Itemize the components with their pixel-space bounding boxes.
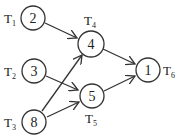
svg-text:6: 6: [171, 71, 175, 80]
svg-text:T: T: [4, 115, 12, 130]
node-t5-value: 5: [89, 89, 96, 104]
svg-text:5: 5: [93, 119, 97, 128]
label-t3: T 3: [4, 115, 16, 132]
node-t5: 5: [80, 84, 104, 108]
svg-text:T: T: [85, 111, 93, 126]
svg-text:2: 2: [12, 72, 16, 81]
node-t6-value: 1: [145, 63, 152, 78]
node-t6: 1: [136, 58, 160, 82]
label-t6: T 6: [163, 63, 175, 80]
edge-t3-t4: [42, 55, 82, 111]
label-t2: T 2: [4, 64, 16, 81]
node-t4-value: 4: [88, 37, 95, 52]
label-t1: T 1: [4, 11, 16, 28]
node-t4: 4: [78, 31, 104, 57]
node-t3-value: 8: [31, 115, 38, 130]
svg-text:T: T: [84, 13, 92, 28]
svg-text:4: 4: [92, 21, 96, 30]
label-t4: T 4: [84, 13, 96, 30]
svg-text:T: T: [4, 11, 12, 26]
edge-t5-t6: [104, 76, 135, 91]
svg-text:1: 1: [12, 19, 16, 28]
svg-text:T: T: [163, 63, 171, 78]
edge-t3-t5: [47, 102, 79, 117]
node-t1-value: 2: [30, 11, 37, 26]
svg-text:3: 3: [12, 123, 16, 132]
node-t2: 3: [22, 59, 46, 83]
edge-t4-t6: [103, 49, 135, 64]
task-graph: 2 T 1 3 T 2 8 T 3 4 T 4 5 T 5 1: [0, 0, 178, 136]
node-t3: 8: [22, 110, 46, 134]
label-t5: T 5: [85, 111, 97, 128]
svg-text:T: T: [4, 64, 12, 79]
node-t2-value: 3: [31, 64, 38, 79]
node-t1: 2: [21, 6, 45, 30]
edge-t1-t4: [45, 23, 77, 38]
